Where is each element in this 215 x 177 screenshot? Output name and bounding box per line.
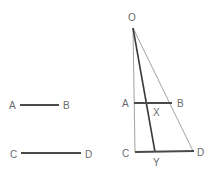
left-label-a: A: [9, 100, 16, 111]
ray-o-c: [133, 28, 135, 152]
left-label-b: B: [63, 100, 70, 111]
label-y: Y: [153, 157, 160, 168]
ray-o-y: [133, 28, 155, 152]
left-figure: A B C D: [9, 100, 92, 160]
diagram-canvas: A B C D O A B X C D Y: [0, 0, 215, 177]
right-figure: O A B X C D Y: [122, 12, 204, 168]
right-segment-cd: [135, 151, 194, 152]
right-label-c: C: [122, 148, 129, 159]
left-label-c: C: [10, 149, 17, 160]
label-o: O: [128, 12, 136, 23]
right-label-a: A: [122, 98, 129, 109]
right-label-d: D: [197, 147, 204, 158]
right-label-b: B: [177, 98, 184, 109]
left-label-d: D: [85, 149, 92, 160]
label-x: X: [153, 107, 160, 118]
ray-o-d: [133, 28, 193, 151]
